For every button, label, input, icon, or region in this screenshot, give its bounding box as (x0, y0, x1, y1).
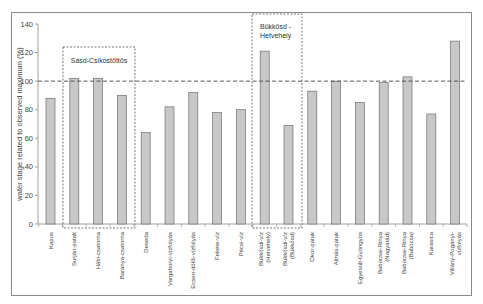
bar (236, 110, 245, 224)
category-label: Kapos (48, 232, 54, 249)
annotation-box-2 (252, 14, 302, 228)
category-label: Villány-Pogányi- (449, 232, 455, 275)
y-tick-label: 0 (29, 220, 33, 229)
category-label: Ecsen-dölői-vízfolyás (190, 232, 196, 289)
category-label: Surján-patak (71, 231, 77, 266)
bar (165, 107, 174, 224)
x-tick-label: Ecsen-dölői-vízfolyás (190, 232, 196, 289)
x-tick-label: Deseda (143, 231, 149, 252)
y-tick-label: 60 (25, 134, 33, 143)
category-label: Babócsai-Rinya (401, 231, 407, 274)
x-tick-label: Babócsai-Rinya(Babócsa) (401, 231, 414, 274)
x-tick-label: Babócsai-Rinya(Nagyatád) (377, 231, 390, 274)
category-label: vízfolyás (456, 232, 462, 255)
x-tick-label: Kapos (48, 232, 54, 249)
category-label: (Bükkösd) (289, 232, 295, 259)
category-label: Fekete-víz (214, 232, 220, 260)
bar (308, 91, 317, 224)
bar (117, 95, 126, 224)
bar (213, 113, 222, 224)
y-tick-label: 140 (20, 20, 33, 29)
annotation-label: Sásd-Csikóstőttős (71, 57, 128, 64)
category-label: Babócsai-Rinya (377, 231, 383, 274)
x-tick-label: Villány-Pogányi-vízfolyás (449, 232, 462, 275)
category-label: (Babócsa) (408, 232, 414, 259)
x-tick-label: Hábi-csatorna (95, 231, 101, 269)
category-label: Deseda (143, 231, 149, 252)
bar (427, 114, 436, 224)
x-tick-label: Pécsi-víz (238, 232, 244, 256)
x-tick-label: Egyesült-Gyöngyös (357, 232, 363, 284)
bar (284, 125, 293, 224)
category-label: Pécsi-víz (238, 232, 244, 256)
annotation-label: Hetvehely (260, 32, 292, 40)
x-tick-label: Bükkösdi-víz(Bükkösd) (282, 232, 295, 266)
category-label: Bükkösdi-víz (282, 232, 288, 266)
category-label: Baranya-csatorna (119, 231, 125, 279)
x-tick-label: Baranya-csatorna (119, 231, 125, 279)
x-tick-label: Okor-patak (309, 231, 315, 262)
category-label: (Nagyatád) (384, 232, 390, 262)
x-tick-label: Surján-patak (71, 231, 77, 266)
bar (46, 98, 55, 224)
bar (379, 83, 388, 224)
category-label: Hábi-csatorna (95, 231, 101, 269)
x-tick-label: Fekete-víz (214, 232, 220, 260)
bar (189, 93, 198, 224)
x-tick-label: Karasica (428, 231, 434, 255)
category-label: Bükkösdi-víz (258, 232, 264, 266)
x-tick-label: Bükkösdi-víz(Hetvehely) (258, 232, 271, 266)
x-tick-label: Almás-patak (333, 231, 339, 265)
bar (141, 133, 150, 224)
bar (260, 51, 269, 224)
annotation-label: Bükkösd - (260, 23, 292, 30)
category-label: Almás-patak (333, 231, 339, 265)
bar (403, 77, 412, 224)
bar (355, 103, 364, 224)
category-label: (Hetvehely) (265, 232, 271, 263)
y-tick-label: 20 (25, 191, 33, 200)
bar (451, 41, 460, 224)
category-label: Egyesült-Gyöngyös (357, 232, 363, 284)
x-tick-label: Vargaboryi-vízfolyás (167, 232, 173, 286)
y-axis-label: water stage related to observed maximum … (15, 47, 24, 202)
y-tick-label: 80 (25, 105, 33, 114)
bar (332, 81, 341, 224)
bar-chart: Sásd-CsikóstőttősBükkösd -Hetvehely02040… (0, 0, 483, 304)
category-label: Vargaboryi-vízfolyás (167, 232, 173, 286)
y-tick-label: 40 (25, 162, 33, 171)
bar (94, 78, 103, 224)
bar (70, 78, 79, 224)
category-label: Okor-patak (309, 231, 315, 262)
category-label: Karasica (428, 231, 434, 255)
